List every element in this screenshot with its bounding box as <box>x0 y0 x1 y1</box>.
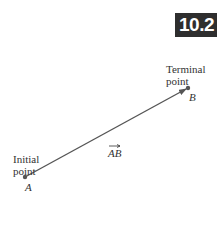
vector-ab-arrow <box>25 89 186 177</box>
terminal-point-name: B <box>189 91 196 103</box>
terminal-point-label-line1: Terminal <box>166 63 206 75</box>
initial-point-label-line1: Initial <box>13 153 39 165</box>
initial-point-label-line2: point <box>13 165 36 177</box>
terminal-point-label-line2: point <box>166 75 189 87</box>
initial-point-name: A <box>25 181 32 193</box>
vector-ab-label: AB <box>108 147 121 159</box>
